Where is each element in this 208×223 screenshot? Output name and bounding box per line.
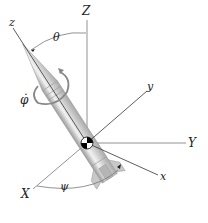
z-axis-label: z xyxy=(8,16,15,29)
theta-label: θ xyxy=(53,31,60,44)
Y-axis-label: Y xyxy=(188,136,197,150)
y-body-axis xyxy=(87,91,147,143)
x-axis-label: x xyxy=(160,170,167,183)
Z-axis-label: Z xyxy=(81,4,91,18)
z-body-axis xyxy=(13,28,87,143)
rocket-diagram: Z Y X z y x θ ψ φ̇ xyxy=(0,0,208,223)
phi-dot-label: φ̇ xyxy=(20,93,29,107)
psi-label: ψ xyxy=(60,180,69,193)
y-axis-label: y xyxy=(146,80,154,93)
center-of-mass-icon xyxy=(81,137,93,149)
X-axis-label: X xyxy=(20,187,30,201)
